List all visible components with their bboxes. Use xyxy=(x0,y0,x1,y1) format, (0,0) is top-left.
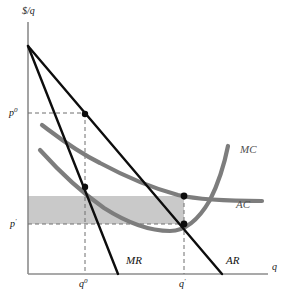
p0-tick-sup: 0 xyxy=(14,106,18,114)
mr-line xyxy=(28,46,118,274)
ar-line xyxy=(28,46,222,274)
monopoly-cost-revenue-chart: $/q q p0 p' q0 q' MC AC MR AR xyxy=(0,0,293,291)
ac-curve-label: AC xyxy=(236,199,250,210)
marker-ar-at-q1 xyxy=(181,221,188,228)
p1-tick-sup: ' xyxy=(15,217,17,225)
p0-tick-label: p0 xyxy=(9,107,18,118)
p1-tick-label: p' xyxy=(10,218,17,229)
mr-line-label: MR xyxy=(126,255,142,266)
ar-line-label: AR xyxy=(226,255,239,266)
q0-tick-sup: 0 xyxy=(84,277,88,285)
q1-tick-label: q' xyxy=(179,278,186,289)
q1-tick-sup: ' xyxy=(184,277,186,285)
y-axis-label: $/q xyxy=(22,6,35,16)
q0-tick-label: q0 xyxy=(79,278,88,289)
mc-curve-label: MC xyxy=(240,144,257,155)
marker-ar-at-q0 xyxy=(82,111,88,117)
marker-ac-at-q1 xyxy=(181,193,188,200)
x-axis-label: q xyxy=(272,262,277,272)
marker-mr-at-q0 xyxy=(82,184,88,190)
